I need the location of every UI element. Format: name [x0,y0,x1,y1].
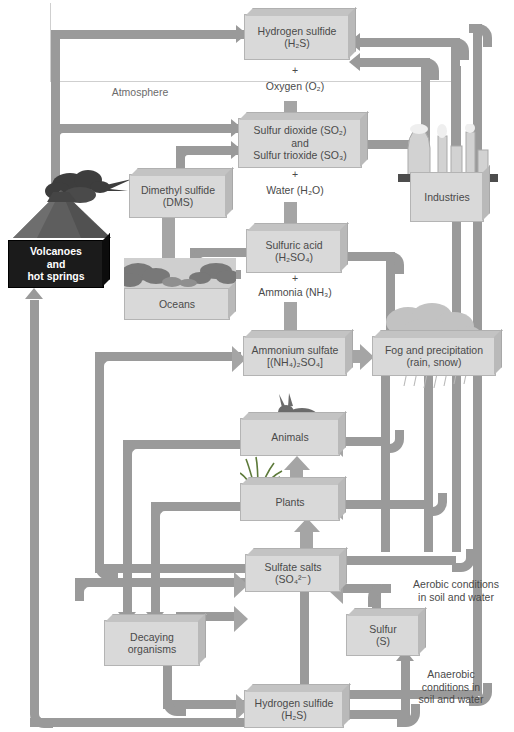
box-top-face [245,8,357,16]
node-fog-precipitation-line1: Fog and precipitation [385,344,483,356]
node-sulfuric-acid[interactable]: Sulfuric acid (H₂SO₄) [246,229,342,273]
node-sulfur-oxides-line1: Sulfur dioxide (SO₂) [254,124,347,136]
node-decaying-organisms-line2: organisms [128,643,176,655]
elbow-dms-so2 [176,146,197,167]
box-top-face [130,168,234,176]
pipe-outer-left-bottom [30,718,260,727]
label-anaerobic-conditions: Anaerobic conditions in soil and water [398,668,504,706]
box-top-face [247,223,349,231]
node-animals[interactable]: Animals [240,418,340,456]
node-industries-label: Industries [421,191,473,204]
pipe-outer-left-up [30,300,39,710]
node-decaying-organisms[interactable]: Decaying organisms [104,620,200,666]
elbow-plants-left [151,502,174,525]
node-sulfur-line1: Sulfur [369,623,396,635]
box-side-face [228,281,236,319]
elbow-fog-plants [424,493,447,516]
pipe-fog-to-sulfate [340,556,456,565]
node-sulfur-oxides-line2: and [291,137,309,149]
node-volcanoes[interactable]: Volcanoes and hot springs [8,240,104,288]
node-sulfuric-acid-line2: (H₂SO₄) [275,251,313,263]
box-top-face [246,548,348,556]
pipe-volcano-to-so2-a [60,124,240,133]
node-dimethyl-sulfide[interactable]: Dimethyl sulfide (DMS) [129,174,227,218]
label-water: Water (H₂O) [245,184,345,197]
label-aerobic-line2: in soil and water [418,591,494,603]
node-industries[interactable]: Industries [410,172,484,222]
box-side-face [198,613,206,665]
arrowhead-into-sulfate-left-a [234,606,248,632]
elbow-acid-right [382,252,404,274]
reaction-arrow-acid-to-ammonium [284,302,297,332]
label-plus-oxygen: + [255,64,335,77]
ocean-waves-illustration [124,258,236,290]
box-top-face [347,608,427,616]
node-hydrogen-sulfide-bottom[interactable]: Hydrogen sulfide (H₂S) [244,690,344,728]
elbow-fog-sulfate [452,549,475,572]
elbow-sulfate-outer-left [75,578,98,601]
arrowhead-into-volcanoes-bottom [25,288,43,299]
box-side-face [494,329,502,375]
node-fog-precipitation-line2: (rain, snow) [407,356,462,368]
pipe-sulfate-down [300,584,309,692]
sulfur-cycle-diagram: Hydrogen sulfide (H₂S) Sulfur dioxide (S… [0,0,514,732]
box-top-face [373,330,503,338]
box-side-face [340,222,348,272]
box-top-face [105,614,207,622]
node-sulfate-salts-line1: Sulfate salts [264,561,321,573]
label-plus-ammonia: + [255,272,335,285]
node-fog-precipitation[interactable]: Fog and precipitation (rain, snow) [372,336,496,376]
node-ammonium-sulfate-line2: [(NH₄)₂SO₄] [267,356,323,368]
node-hydrogen-sulfide-bottom-line2: (H₂S) [281,709,307,721]
node-decaying-organisms-line1: Decaying [130,631,174,643]
node-sulfur-oxides[interactable]: Sulfur dioxide (SO₂) and Sulfur trioxide… [238,118,362,168]
box-side-face [345,329,353,375]
elbow-sulfur-sulfate [368,584,391,607]
box-side-face [225,167,233,217]
node-sulfuric-acid-line1: Sulfuric acid [265,239,322,251]
label-anaerobic-line1: Anaerobic [427,668,474,680]
label-plus-water: + [255,168,335,181]
label-atmosphere: Atmosphere [80,86,200,99]
node-sulfate-salts-line2: (SO₄²⁻) [275,573,311,585]
pipe-industries-to-h2s-outer [360,38,456,47]
box-side-face [418,607,426,655]
box-top-face [239,112,369,120]
node-ammonium-sulfate-line1: Ammonium sulfate [252,344,339,356]
node-oceans[interactable]: Oceans [124,288,230,320]
label-oxygen: Oxygen (O₂) [245,80,345,93]
pipe-fog-to-plants [340,500,428,509]
elbow-volcano-so2-a [51,124,72,145]
box-side-face [348,7,356,59]
pipe-fog-down-b [424,372,433,552]
node-oceans-label: Oceans [156,298,198,311]
node-hydrogen-sulfide-top-line1: Hydrogen sulfide [258,25,337,37]
elbow-decaying-h2s [163,693,186,716]
elbow-sulfate-left-bottom [95,557,118,580]
node-plants[interactable]: Plants [240,483,340,521]
pipe-animals-to-decaying [123,440,132,620]
elbow-top-right-outer [469,24,492,47]
elbow-industries-outer [447,38,469,60]
pipe-sulfate-to-outer-left [75,578,245,587]
box-top-face [241,477,347,485]
node-sulfur[interactable]: Sulfur (S) [346,614,420,656]
elbow-fog-animals [381,430,404,453]
box-top-face [244,330,354,338]
node-hydrogen-sulfide-top[interactable]: Hydrogen sulfide (H₂S) [244,14,350,60]
node-hydrogen-sulfide-top-line2: (H₂S) [284,37,310,49]
node-hydrogen-sulfide-bottom-line1: Hydrogen sulfide [255,697,334,709]
node-dimethyl-sulfide-line1: Dimethyl sulfide [141,184,215,196]
node-sulfate-salts[interactable]: Sulfate salts (SO₄²⁻) [245,554,341,592]
pipe-fog-to-animals [340,437,386,446]
label-aerobic-line1: Aerobic conditions [413,578,499,590]
elbow-animals-left [123,440,146,463]
box-side-face [482,165,490,221]
node-ammonium-sulfate[interactable]: Ammonium sulfate [(NH₄)₂SO₄] [243,336,347,376]
node-plants-label: Plants [272,496,307,509]
box-side-face [338,411,346,455]
node-volcanoes-line3: hot springs [27,270,84,282]
elbow-ammonium-left-top [95,352,118,375]
node-animals-label: Animals [268,431,311,444]
label-anaerobic-line3: soil and water [419,693,484,705]
